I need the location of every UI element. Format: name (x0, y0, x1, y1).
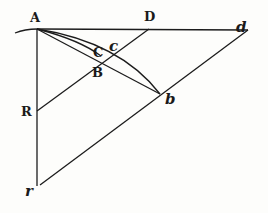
label-r: r (25, 182, 34, 200)
line-r-d (40, 30, 248, 185)
label-D: D (144, 9, 155, 24)
label-c: c (109, 37, 118, 55)
label-C: C (93, 45, 103, 60)
label-d: d (236, 18, 247, 36)
label-R: R (21, 104, 32, 119)
geometry-figure: A D d C c B b R r (0, 0, 268, 213)
line-A-b (37, 29, 160, 94)
label-B: B (92, 65, 103, 80)
arc-A-c (37, 29, 101, 56)
label-A: A (29, 10, 41, 25)
label-b: b (165, 90, 176, 108)
